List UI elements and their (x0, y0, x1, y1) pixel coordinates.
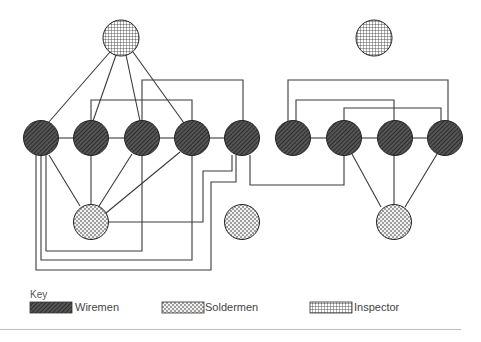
edge-W1-W5 (36, 155, 236, 270)
key-item-soldermen: Soldermen (205, 301, 258, 313)
inspector-node (103, 20, 139, 56)
edge-I1-W3 (126, 55, 140, 121)
edge-S1-W5 (108, 155, 232, 222)
soldermen-swatch (162, 302, 204, 313)
edge-W1-W4 (41, 155, 192, 260)
key-label: Inspector (354, 301, 399, 313)
edge-W3-S1 (99, 154, 132, 206)
edge-W6-W8 (296, 100, 394, 121)
key-item-inspector: Inspector (354, 301, 399, 313)
wireman-node (378, 121, 413, 156)
wireman-node (327, 121, 362, 156)
nodes (24, 20, 463, 240)
wireman-node (175, 121, 210, 156)
wireman-node (24, 121, 59, 156)
wireman-node (225, 121, 260, 156)
key-item-wiremen: Wiremen (75, 301, 119, 313)
key-title: Key (30, 289, 47, 300)
edge-I1-W2 (93, 55, 116, 121)
wireman-node (428, 121, 463, 156)
divider (0, 329, 461, 330)
network-diagram (0, 0, 481, 342)
edge-I1-W1 (48, 52, 110, 123)
key-label: Wiremen (75, 301, 119, 313)
edge-W4-S1 (106, 152, 180, 213)
edge-W9-S4 (405, 154, 437, 207)
wireman-node (125, 121, 160, 156)
edge-W1-S1 (49, 155, 80, 206)
edge-W7-S4 (352, 154, 381, 207)
edge-W5-W7 (250, 155, 344, 185)
solderman-node (74, 205, 109, 240)
solderman-node (225, 205, 260, 240)
inspector-node (356, 20, 392, 56)
wiremen-swatch (30, 302, 72, 313)
wireman-node (276, 121, 311, 156)
wireman-node (74, 121, 109, 156)
edge-I1-W4 (133, 52, 184, 123)
edge-W7-W9 (344, 108, 441, 121)
key-label: Soldermen (205, 301, 258, 313)
solderman-node (377, 205, 412, 240)
inspector-swatch (310, 302, 352, 313)
